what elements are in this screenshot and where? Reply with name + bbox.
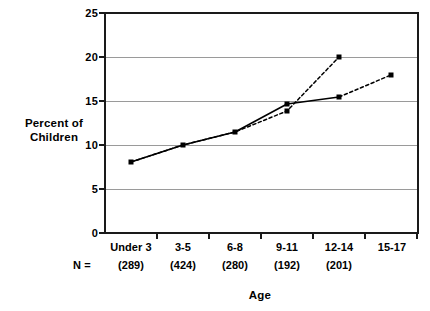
series-dashed-line — [131, 57, 339, 162]
x-tick-label-under-3: Under 3 — [104, 241, 158, 253]
data-point-solid-under3 — [129, 160, 134, 165]
sample-size-6-8: (280) — [210, 259, 260, 271]
plot-border — [105, 13, 418, 233]
chart-figure: Percent of Children 25 20 15 10 5 0 — [0, 0, 430, 311]
data-point-solid-12-14 — [337, 95, 342, 100]
x-tick-label-12-14: 12-14 — [311, 241, 367, 253]
data-point-solid-3-5 — [181, 143, 186, 148]
sample-size-label: N = — [73, 259, 91, 271]
x-tick-label-3-5: 3-5 — [158, 241, 208, 253]
data-point-solid-9-11 — [285, 102, 290, 107]
sample-size-9-11: (192) — [261, 259, 313, 271]
x-axis-title: Age — [225, 289, 295, 301]
data-point-dashed-15-17 — [389, 73, 394, 78]
x-tick-label-9-11: 9-11 — [261, 241, 313, 253]
sample-size-under-3: (289) — [104, 259, 158, 271]
y-axis-ticks — [99, 13, 105, 233]
series-dashed-tail-line — [339, 75, 391, 97]
series-dashed-markers — [285, 55, 394, 114]
x-axis-ticks — [157, 233, 417, 239]
data-point-solid-6-8 — [233, 130, 238, 135]
grid-lines — [105, 57, 418, 189]
series-solid-markers — [129, 95, 342, 165]
x-tick-label-6-8: 6-8 — [210, 241, 260, 253]
x-tick-label-15-17: 15-17 — [364, 241, 420, 253]
sample-size-12-14: (201) — [311, 259, 367, 271]
data-point-dashed-9-11 — [285, 109, 290, 114]
sample-size-3-5: (424) — [158, 259, 208, 271]
data-point-dashed-12-14 — [337, 55, 342, 60]
